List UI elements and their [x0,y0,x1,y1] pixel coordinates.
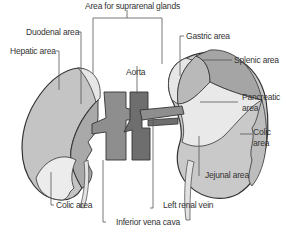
label-pancreatic-1: Pancreatic [242,92,280,102]
label-hepatic: Hepatic area [10,46,56,56]
kidney-relations-diagram: Area for suprarenal glands Duodenal area… [0,0,288,235]
label-colic-left-2: area [253,138,269,148]
vessels [92,92,184,160]
label-duodenal: Duodenal area [26,27,79,37]
label-splenic: Splenic area [234,55,279,65]
aorta [124,92,150,160]
label-aorta: Aorta [126,67,145,77]
label-colic-right: Colic area [56,200,92,210]
label-suprarenal: Area for suprarenal glands [85,1,180,11]
label-ivc: Inferior vena cava [116,217,180,227]
renal-artery [148,118,178,126]
label-pancreatic-2: area [242,103,258,113]
right-kidney [22,68,100,208]
label-gastric: Gastric area [186,31,230,41]
label-jejunal: Jejunal area [205,170,249,180]
label-left-renal-vein: Left renal vein [163,200,213,210]
label-colic-left-1: Colic [253,127,271,137]
